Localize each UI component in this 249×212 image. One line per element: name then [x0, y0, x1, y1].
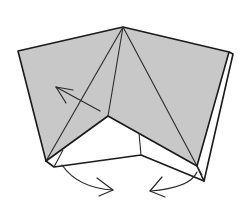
- arrow-head-icon: [150, 177, 165, 197]
- arrow-head-icon: [97, 178, 113, 196]
- diagram-canvas: [0, 0, 249, 212]
- origami-diagram: [0, 0, 249, 212]
- arrow-curved-left: [62, 165, 113, 190]
